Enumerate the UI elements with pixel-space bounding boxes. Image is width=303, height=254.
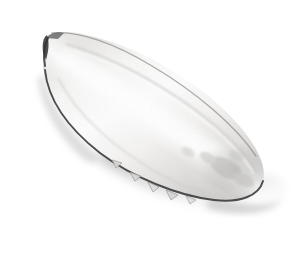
cuttlebone-illustration xyxy=(0,0,303,254)
image-canvas xyxy=(0,0,303,254)
